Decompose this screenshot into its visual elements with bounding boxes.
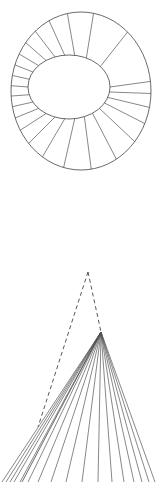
technical-drawing-canvas: [0, 0, 160, 482]
canvas-background: [0, 0, 160, 482]
